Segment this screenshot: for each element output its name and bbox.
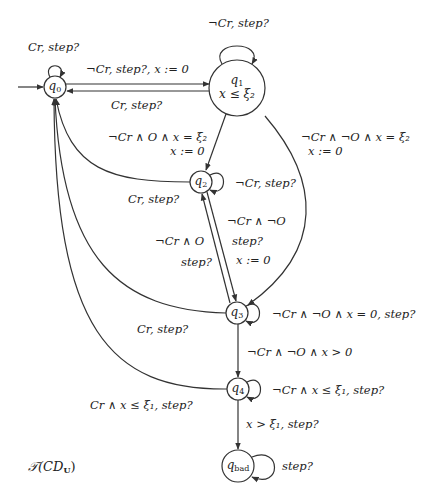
automaton-diagram: q0 q1x ≤ ξ₂ q2 q3 q4 qbad Cr, step? ¬Cr,…	[0, 0, 427, 502]
edge-label-q1-q2: ¬Cr ∧ O ∧ x = ξ₂	[108, 132, 207, 144]
edge-label-q0-q1: ¬Cr, step?, x := 0	[86, 64, 189, 76]
edge-label-q1-q3: ¬Cr ∧ ¬O ∧ x = ξ₂	[301, 132, 410, 144]
diagram-edges	[0, 0, 427, 502]
edge-label-q2-loop: ¬Cr, step?	[235, 178, 296, 190]
edge-label-q1-q3-reset: x := 0	[308, 146, 343, 158]
node-qbad-label: qbad	[227, 459, 250, 473]
edge-label-q3-loop: ¬Cr ∧ ¬O ∧ x = 0, step?	[272, 309, 415, 321]
diagram-title: 𝒯(CDU)	[28, 459, 76, 475]
edge-label-q2-q3: ¬Cr ∧ ¬O	[227, 216, 286, 228]
edge-label-q4-loop: ¬Cr ∧ x ≤ ξ₁, step?	[272, 385, 384, 397]
edge-label-q1-q2-reset: x := 0	[170, 146, 205, 158]
edge-label-q4-q0: Cr ∧ x ≤ ξ₁, step?	[90, 400, 193, 412]
edge-label-q1-loop: ¬Cr, step?	[208, 18, 269, 30]
node-q0-label: q0	[49, 80, 62, 94]
node-q4-label: q4	[232, 382, 245, 396]
edge-label-q0-loop: Cr, step?	[28, 42, 79, 54]
edge-label-q2-q3-step: step?	[232, 236, 263, 248]
edge-label-q3-q4: ¬Cr ∧ ¬O ∧ x > 0	[247, 347, 352, 359]
node-q2-label: q2	[195, 175, 208, 189]
q1-invariant: x ≤ ξ₂	[219, 87, 255, 101]
edge-label-q3-q2: ¬Cr ∧ O	[155, 236, 204, 248]
edge-label-q2-q3-reset: x := 0	[236, 255, 271, 267]
edge-label-q3-q0: Cr, step?	[137, 324, 188, 336]
edge-label-q3-q2-step: step?	[181, 257, 212, 269]
node-q1-label: q1x ≤ ξ₂	[219, 74, 255, 102]
edge-label-q1-q0: Cr, step?	[111, 100, 162, 112]
edge-label-q4-qbad: x > ξ₁, step?	[246, 419, 319, 431]
edge-label-qbad-loop: step?	[282, 461, 313, 473]
edge-label-q2-q0: Cr, step?	[128, 194, 179, 206]
node-q3-label: q3	[231, 306, 244, 320]
